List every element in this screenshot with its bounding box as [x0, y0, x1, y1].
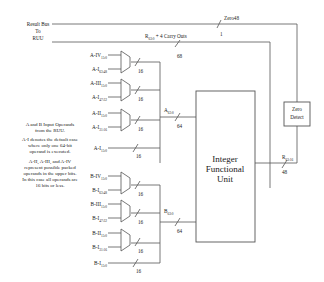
notes: A and B Input Operands from the RUU. A-I…	[22, 122, 79, 188]
zero48-label: Zero48	[224, 15, 239, 21]
a-input-label: A-IV15:0	[90, 52, 107, 60]
ifu-line-3: Unit	[217, 174, 234, 184]
b-input-label: B-II15:0	[92, 230, 107, 238]
svg-text:A-I denotes the default case: A-I denotes the default case	[22, 137, 79, 142]
a-mux-1: 16	[108, 51, 144, 74]
zero-detect-line-1: Zero	[292, 106, 302, 112]
svg-text:16 bits or less.: 16 bits or less.	[36, 183, 65, 188]
ifu-line-1: Integer	[212, 154, 237, 164]
a-input-label: A-III15:0	[90, 80, 107, 88]
a-bus-width: 64	[177, 123, 183, 129]
svg-text:16: 16	[138, 248, 144, 254]
carry-width: 68	[177, 53, 183, 59]
a-input-label: A-I31:16	[92, 124, 107, 132]
svg-text:16: 16	[138, 219, 144, 225]
b-input-label: B-I31:16	[92, 244, 107, 252]
ifu-line-2: Functional	[206, 164, 245, 174]
svg-text:A and B Input Operands: A and B Input Operands	[26, 122, 75, 127]
a-input-label: A-I63:48	[92, 66, 107, 74]
a-direct: 16	[108, 144, 142, 159]
a-input-label: A-I47:32	[92, 94, 107, 102]
svg-text:In this case all operands are: In this case all operands are	[22, 177, 78, 182]
svg-text:operands in the upper bits.: operands in the upper bits.	[24, 171, 77, 176]
svg-text:operand is executed.: operand is executed.	[30, 149, 71, 154]
a-bus-label: A63:0	[164, 107, 174, 115]
svg-text:represent possible packed: represent possible packed	[24, 165, 76, 170]
a-input-label: A-I15:0	[94, 145, 108, 153]
result-bus-label-2: To	[35, 28, 41, 34]
b-input-label: B-IV15:0	[90, 173, 107, 181]
a-mux-3: 16	[108, 109, 144, 132]
b-bus-collector	[131, 185, 160, 263]
a-input-label: A-II15:0	[92, 110, 107, 118]
b-input-label: B-III15:0	[91, 201, 108, 209]
b-input-label: B-I63:48	[92, 187, 107, 195]
r-bus-label: R63:16	[282, 154, 293, 162]
b-input-label: B-I47:32	[92, 215, 107, 223]
svg-text:16: 16	[138, 96, 144, 102]
b-direct: 16	[108, 259, 160, 274]
svg-text:16: 16	[138, 126, 144, 132]
b-mux-1: 16	[108, 172, 144, 197]
integer-unit-diagram: Result Bus To RUU Zero48 1 R63:0 + 4 Car…	[0, 0, 324, 282]
zero-detect-line-2: Detect	[290, 114, 304, 120]
svg-text:16: 16	[136, 268, 142, 274]
svg-text:where only one 64-bit: where only one 64-bit	[28, 143, 73, 148]
result-bus-label-1: Result Bus	[27, 21, 50, 27]
a-mux-2: 16	[108, 79, 144, 102]
zero48-width: 1	[220, 31, 223, 37]
b-mux-3: 16	[108, 229, 144, 254]
b-bus-label: B63:0	[164, 208, 174, 216]
b-mux-2: 16	[108, 200, 144, 225]
b-bus-width: 64	[177, 228, 183, 234]
b-input-label: B-I15:0	[94, 260, 107, 268]
svg-text:16: 16	[138, 68, 144, 74]
r-bus-width: 48	[282, 169, 288, 175]
svg-text:from the RUU.: from the RUU.	[35, 128, 65, 133]
svg-text:16: 16	[136, 153, 142, 159]
result-bus-label-3: RUU	[33, 35, 44, 41]
carry-slash	[175, 40, 180, 47]
svg-text:16: 16	[138, 191, 144, 197]
carry-label: R63:0 + 4 Carry Outs	[145, 33, 187, 41]
